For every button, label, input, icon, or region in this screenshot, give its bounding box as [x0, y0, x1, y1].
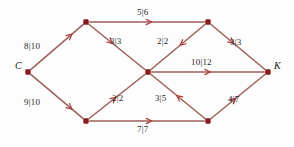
edge-label-br-to-m: 3|5: [155, 93, 166, 103]
edge-label-c-to-bl: 9|10: [24, 97, 40, 107]
edge-label-c-to-tl: 8|10: [24, 41, 40, 51]
flow-network-figure: 8|109|105|63|32|23|310|122|27|73|54|7 CK: [0, 0, 294, 147]
edge-tl-to-m: [88, 24, 145, 70]
edge-label-tr-to-k: 3|3: [230, 37, 241, 47]
edge-label-bl-to-br: 7|7: [137, 124, 148, 134]
node-tl[interactable]: [84, 20, 89, 25]
edge-label-m-to-k: 10|12: [191, 57, 212, 67]
node-br[interactable]: [206, 119, 211, 124]
node-c[interactable]: [26, 70, 31, 75]
node-tr[interactable]: [206, 20, 211, 25]
node-label-c: C: [15, 60, 22, 71]
edge-label-br-to-k: 4|7: [228, 94, 239, 104]
node-label-k: K: [274, 60, 281, 71]
edge-label-tl-to-m: 3|3: [110, 36, 121, 46]
edge-label-tr-to-m: 2|2: [157, 36, 168, 46]
node-k[interactable]: [266, 70, 271, 75]
arrowheads-layer: [66, 19, 236, 123]
node-m[interactable]: [146, 70, 151, 75]
node-bl[interactable]: [84, 119, 89, 124]
edge-label-tl-to-tr: 5|6: [137, 7, 148, 17]
edge-tr-to-k: [210, 24, 265, 70]
edge-label-bl-to-m: 2|2: [112, 93, 123, 103]
